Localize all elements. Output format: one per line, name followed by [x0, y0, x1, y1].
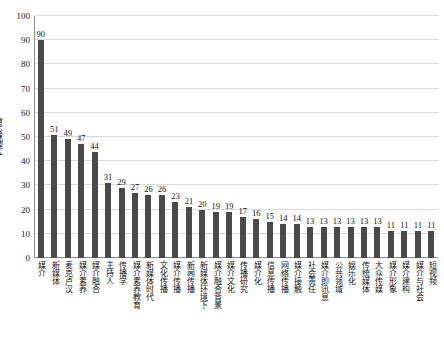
- bar-value-label: 44: [90, 142, 99, 151]
- bar-rect[interactable]: [78, 144, 84, 258]
- bar-item[interactable]: 51: [47, 16, 60, 258]
- x-axis-category-labels: 媒介新媒体麦克卢汉媒介素养媒介融合主持人传播学媒介素养教育新媒体时代文化传播媒介…: [34, 261, 438, 345]
- bar-item[interactable]: 13: [303, 16, 316, 258]
- bar-item[interactable]: 13: [344, 16, 357, 258]
- y-tick-label: 60: [21, 108, 30, 117]
- bar-item[interactable]: 21: [182, 16, 195, 258]
- bar-rect[interactable]: [321, 227, 327, 258]
- x-tick-slot: 新闻传播: [182, 261, 195, 345]
- x-tick-label: 传播研究: [239, 261, 247, 293]
- x-tick-slot: 媒介与社会: [411, 261, 424, 345]
- y-tick-label: 80: [21, 60, 30, 69]
- bar-rect[interactable]: [172, 202, 178, 258]
- bar-item[interactable]: 47: [74, 16, 87, 258]
- bar-item[interactable]: 27: [128, 16, 141, 258]
- bar-rect[interactable]: [253, 219, 259, 258]
- bar-item[interactable]: 44: [88, 16, 101, 258]
- bar-item[interactable]: 29: [115, 16, 128, 258]
- bar-rect[interactable]: [374, 227, 380, 258]
- x-tick-label: 媒介建构: [400, 261, 408, 293]
- x-tick-label: 媒介融合: [90, 261, 98, 293]
- x-tick-slot: 麦克卢汉: [61, 261, 74, 345]
- bar-item[interactable]: 13: [371, 16, 384, 258]
- bar-item[interactable]: 19: [223, 16, 236, 258]
- bar-item[interactable]: 14: [290, 16, 303, 258]
- x-tick-slot: 媒介: [34, 261, 47, 345]
- bar-value-label: 11: [427, 221, 435, 230]
- bar-item[interactable]: 13: [357, 16, 370, 258]
- x-tick-label: 媒介文化: [225, 261, 233, 293]
- x-tick-slot: 媒介接触: [290, 261, 303, 345]
- x-tick-slot: 媒介传播: [169, 261, 182, 345]
- bar-item[interactable]: 23: [169, 16, 182, 258]
- bar-rect[interactable]: [348, 227, 354, 258]
- x-tick-label: 大众传媒: [373, 261, 381, 293]
- bar-item[interactable]: 15: [263, 16, 276, 258]
- bar-rect[interactable]: [267, 222, 273, 258]
- x-tick-label: 媒介与社会: [414, 261, 422, 301]
- x-tick-slot: 社会责任: [303, 261, 316, 345]
- bar-rect[interactable]: [119, 188, 125, 258]
- bar-rect[interactable]: [294, 224, 300, 258]
- bar-item[interactable]: 13: [317, 16, 330, 258]
- bar-rect[interactable]: [92, 152, 98, 258]
- bar-rect[interactable]: [213, 212, 219, 258]
- x-tick-label: 媒介化: [252, 261, 260, 285]
- x-tick-slot: 媒介融合背景: [209, 261, 222, 345]
- bar-rect[interactable]: [199, 210, 205, 258]
- y-tick-label: 10: [21, 229, 30, 238]
- bar-item[interactable]: 14: [276, 16, 289, 258]
- x-tick-label: 社会责任: [306, 261, 314, 293]
- bar-rect[interactable]: [280, 224, 286, 258]
- bar-rect[interactable]: [132, 193, 138, 258]
- x-tick-slot: 新媒体时代: [142, 261, 155, 345]
- bar-rect[interactable]: [428, 231, 434, 258]
- x-tick-slot: 主持人: [101, 261, 114, 345]
- y-tick-label: 90: [21, 36, 30, 45]
- bar-item[interactable]: 11: [398, 16, 411, 258]
- bar-item[interactable]: 20: [196, 16, 209, 258]
- x-tick-label: 新闻传播: [185, 261, 193, 293]
- y-tick-label: 0: [26, 254, 31, 263]
- bar-item[interactable]: 17: [236, 16, 249, 258]
- x-tick-slot: 新媒体: [47, 261, 60, 345]
- bar-value-label: 13: [306, 217, 315, 226]
- x-tick-label: 娱乐化: [346, 261, 354, 285]
- bar-rect[interactable]: [240, 217, 246, 258]
- x-tick-label: 媒介传播: [171, 261, 179, 293]
- x-tick-slot: 信息传播: [263, 261, 276, 345]
- x-tick-label: 短视频: [427, 261, 435, 285]
- bar-item[interactable]: 31: [101, 16, 114, 258]
- bar-item[interactable]: 13: [330, 16, 343, 258]
- bar-rect[interactable]: [415, 231, 421, 258]
- bar-rect[interactable]: [334, 227, 340, 258]
- bar-item[interactable]: 11: [425, 16, 438, 258]
- x-tick-slot: 娱乐化: [344, 261, 357, 345]
- bar-item[interactable]: 26: [142, 16, 155, 258]
- bar-rect[interactable]: [307, 227, 313, 258]
- bar-value-label: 31: [104, 173, 113, 182]
- bar-value-label: 19: [212, 202, 221, 211]
- bar-rect[interactable]: [105, 183, 111, 258]
- x-tick-slot: 媒介文化: [223, 261, 236, 345]
- bar-rect[interactable]: [51, 135, 57, 258]
- bar-item[interactable]: 19: [209, 16, 222, 258]
- bar-rect[interactable]: [38, 40, 44, 258]
- bar-rect[interactable]: [65, 139, 71, 258]
- bar-item[interactable]: 11: [411, 16, 424, 258]
- bar-rect[interactable]: [145, 195, 151, 258]
- bar-rect[interactable]: [159, 195, 165, 258]
- bar-item[interactable]: 11: [384, 16, 397, 258]
- bar-rect[interactable]: [361, 227, 367, 258]
- bar-value-label: 15: [265, 212, 274, 221]
- x-tick-label: 麦克卢汉: [63, 261, 71, 293]
- bar-rect[interactable]: [401, 231, 407, 258]
- x-tick-label: 媒介融合背景: [212, 261, 220, 309]
- bar-item[interactable]: 90: [34, 16, 47, 258]
- bar-item[interactable]: 26: [155, 16, 168, 258]
- bar-rect[interactable]: [186, 207, 192, 258]
- bar-item[interactable]: 49: [61, 16, 74, 258]
- bar-rect[interactable]: [226, 212, 232, 258]
- bar-item[interactable]: 16: [250, 16, 263, 258]
- bar-rect[interactable]: [388, 231, 394, 258]
